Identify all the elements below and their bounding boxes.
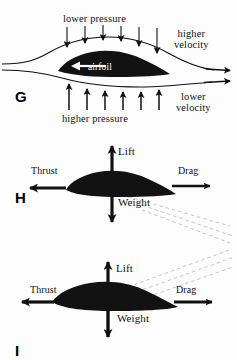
label-higher-velocity-line1: higher: [178, 28, 205, 39]
panel-letter-h: H: [15, 190, 26, 205]
figure-root: lower pressure higher pressure higher ve…: [0, 0, 237, 360]
label-airfoil: airfoil: [88, 62, 112, 72]
label-higher-pressure: higher pressure: [62, 113, 128, 124]
label-weight: Weight: [118, 197, 150, 209]
airfoil-shape: [66, 171, 176, 197]
panel-i-climbing-flight: Lift Thrust Drag Weight I: [0, 245, 237, 360]
label-lower-velocity: lower velocity: [176, 91, 211, 114]
higher-pressure-arrows: [69, 84, 159, 110]
lower-pressure-arrows: [67, 25, 157, 53]
label-lift: Lift: [118, 146, 135, 158]
upper-flow-arrow: [206, 69, 230, 71]
panel-letter-i: I: [15, 343, 19, 358]
airfoil-shape: [52, 282, 178, 311]
panel-letter-g: G: [15, 89, 27, 104]
label-drag: Drag: [176, 285, 196, 296]
panel-g-pressure-velocity: lower pressure higher pressure higher ve…: [0, 0, 237, 140]
label-thrust: Thrust: [31, 166, 58, 177]
label-lower-pressure: lower pressure: [63, 13, 126, 24]
label-drag: Drag: [178, 166, 198, 177]
label-lower-velocity-line2: velocity: [176, 102, 211, 113]
label-lower-velocity-line1: lower: [181, 91, 205, 102]
panel-h-level-flight: Lift Thrust Drag Weight H: [0, 140, 237, 245]
label-lift: Lift: [116, 263, 133, 275]
label-weight: Weight: [117, 313, 149, 325]
label-higher-velocity-line2: velocity: [174, 39, 209, 50]
label-higher-velocity: higher velocity: [174, 28, 209, 51]
label-thrust: Thrust: [30, 285, 57, 296]
lower-flow-arrow: [204, 81, 230, 83]
airfoil-shape: [58, 51, 170, 77]
